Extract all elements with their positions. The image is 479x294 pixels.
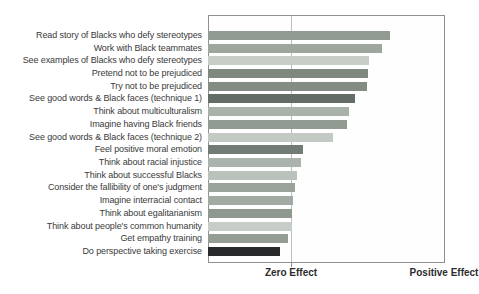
category-label: Imagine having Black friends [0,120,208,129]
bar [208,247,280,256]
bar-row: Pretend not to be prejudiced [0,67,444,80]
zero-effect-axis-label: Zero Effect [265,267,317,278]
category-label: Do perspective taking exercise [0,247,208,256]
bar-row: Consider the fallibility of one's judgme… [0,182,444,195]
bar-track [208,247,444,256]
bar-row: Try not to be prejudiced [0,80,444,93]
bar-row: Think about successful Blacks [0,169,444,182]
bar [208,31,390,40]
bar-track [208,44,444,53]
bar-track [208,196,444,205]
category-label: See examples of Blacks who defy stereoty… [0,56,208,65]
bar-track [208,183,444,192]
bar [208,133,333,142]
bar-track [208,82,444,91]
bar [208,222,292,231]
bar [208,183,295,192]
bar [208,196,293,205]
bar-track [208,94,444,103]
bar-row: Feel positive moral emotion [0,143,444,156]
bar-track [208,145,444,154]
bar-row: Imagine having Black friends [0,118,444,131]
bar [208,44,382,53]
category-label: Think about successful Blacks [0,171,208,180]
category-label: Think about people's common humanity [0,222,208,231]
category-label: Consider the fallibility of one's judgme… [0,183,208,192]
category-label: See good words & Black faces (technique … [0,94,208,103]
category-label: Try not to be prejudiced [0,82,208,91]
bar [208,234,288,243]
bar [208,171,297,180]
bar-row: See good words & Black faces (technique … [0,131,444,144]
bar-row: Do perspective taking exercise [0,245,444,258]
bar-track [208,133,444,142]
category-label: Read story of Blacks who defy stereotype… [0,31,208,40]
category-label: Feel positive moral emotion [0,145,208,154]
category-label: Imagine interracial contact [0,196,208,205]
positive-effect-axis-label: Positive Effect [410,267,479,278]
bar-row: Read story of Blacks who defy stereotype… [0,29,444,42]
bar [208,94,355,103]
bar-rows: Read story of Blacks who defy stereotype… [0,15,444,263]
bar [208,107,349,116]
category-label: Think about egalitarianism [0,209,208,218]
bar-row: Work with Black teammates [0,42,444,55]
bar [208,209,292,218]
bar-track [208,222,444,231]
bar-row: See good words & Black faces (technique … [0,93,444,106]
bar-row: Think about multiculturalism [0,105,444,118]
bar [208,56,369,65]
bar [208,69,368,78]
bar [208,158,301,167]
category-label: Think about racial injustice [0,158,208,167]
bar-row: Think about egalitarianism [0,207,444,220]
category-label: Pretend not to be prejudiced [0,69,208,78]
bar-row: Get empathy training [0,233,444,246]
bar-track [208,69,444,78]
category-label: Think about multiculturalism [0,107,208,116]
bar [208,82,367,91]
bar [208,120,347,129]
bar-row: Think about racial injustice [0,156,444,169]
bar-track [208,171,444,180]
bar-track [208,31,444,40]
bar-track [208,56,444,65]
bar-track [208,107,444,116]
bar-track [208,234,444,243]
category-label: See good words & Black faces (technique … [0,133,208,142]
category-label: Get empathy training [0,234,208,243]
bar-row: Imagine interracial contact [0,194,444,207]
bar-row: See examples of Blacks who defy stereoty… [0,54,444,67]
intervention-effects-chart: Read story of Blacks who defy stereotype… [0,0,479,294]
bar-track [208,158,444,167]
bar-track [208,120,444,129]
bar [208,145,303,154]
bar-track [208,209,444,218]
category-label: Work with Black teammates [0,44,208,53]
bar-row: Think about people's common humanity [0,220,444,233]
